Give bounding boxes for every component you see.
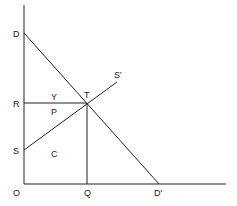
label-s-prime: S' [114,70,122,80]
label-d: D [13,29,20,39]
demand-line [24,33,159,184]
label-r: R [13,99,20,109]
label-t: T [84,90,90,100]
label-s: S [13,146,19,156]
label-y: Y [51,92,57,102]
supply-line [24,82,117,150]
label-c: C [51,149,58,159]
label-p: P [51,107,57,117]
supply-demand-diagram: D R S O Q D' T S' Y P C [0,0,237,206]
label-o: O [13,188,20,198]
label-q: Q [84,188,91,198]
label-d-prime: D' [154,188,162,198]
